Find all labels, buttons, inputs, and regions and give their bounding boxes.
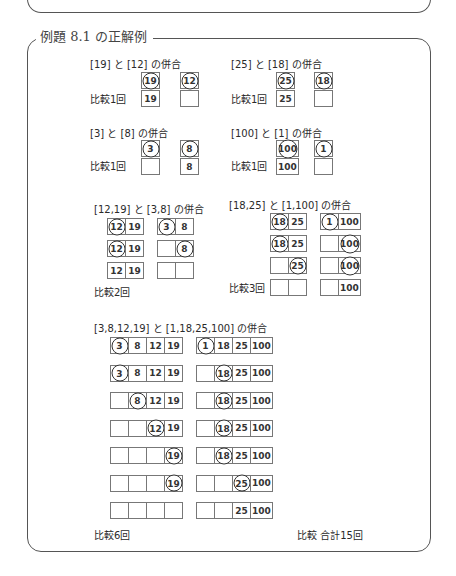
array-cell: 8 bbox=[180, 158, 199, 175]
compare-count: 比較1回 bbox=[90, 94, 126, 106]
circle-marker: 3 bbox=[142, 140, 159, 157]
box-title: 例題 8.1 の正解例 bbox=[36, 28, 153, 46]
previous-box-frame bbox=[27, 0, 431, 13]
array-cell bbox=[110, 420, 129, 437]
left-array: 81219 bbox=[110, 392, 183, 409]
array-cell bbox=[196, 392, 215, 409]
circled-cell: 8 bbox=[175, 240, 194, 257]
circle-marker: 100 bbox=[340, 234, 359, 253]
right-array bbox=[180, 90, 199, 107]
array-cell bbox=[110, 475, 129, 492]
circled-cell: 3 bbox=[157, 218, 176, 235]
array-cell: 19 bbox=[164, 420, 183, 437]
array-cell bbox=[320, 235, 339, 252]
array-cell: 19 bbox=[125, 262, 144, 279]
circle-marker: 100 bbox=[340, 256, 359, 275]
circled-cell: 18 bbox=[270, 235, 289, 252]
circle-marker: 12 bbox=[108, 218, 125, 235]
compare-count: 比較1回 bbox=[231, 94, 267, 106]
array-cell: 12 bbox=[146, 365, 165, 382]
right-array: 1825100 bbox=[196, 392, 273, 409]
array-cell bbox=[110, 392, 129, 409]
array-cell bbox=[164, 502, 183, 519]
array-cell: 12 bbox=[107, 262, 126, 279]
array-cell bbox=[196, 365, 215, 382]
array-cell bbox=[110, 502, 129, 519]
circle-marker: 19 bbox=[142, 72, 159, 89]
array-cell: 100 bbox=[250, 447, 273, 464]
array-cell bbox=[270, 257, 289, 274]
right-array: 100 bbox=[320, 279, 361, 296]
circled-cell: 100 bbox=[338, 235, 361, 252]
merge-label: [19] と [12] の併合 bbox=[90, 59, 181, 71]
circle-marker: 12 bbox=[181, 72, 198, 89]
right-array: 100 bbox=[320, 235, 361, 252]
left-array: 25 bbox=[270, 257, 307, 274]
right-array: 25100 bbox=[196, 475, 273, 492]
array-cell: 19 bbox=[164, 392, 183, 409]
circled-cell: 3 bbox=[141, 140, 160, 157]
merge-label: [25] と [18] の併合 bbox=[231, 59, 322, 71]
circle-marker: 18 bbox=[271, 235, 288, 252]
left-array: 1219 bbox=[107, 262, 144, 279]
compare-count: 比較1回 bbox=[231, 161, 267, 173]
circled-cell: 12 bbox=[107, 218, 126, 235]
array-cell: 25 bbox=[232, 420, 251, 437]
right-array: 100 bbox=[320, 257, 361, 274]
left-array: 1219 bbox=[107, 218, 144, 235]
array-cell: 19 bbox=[164, 337, 183, 354]
right-array bbox=[157, 262, 194, 279]
array-cell bbox=[196, 447, 215, 464]
circle-marker: 1 bbox=[321, 213, 338, 230]
circle-marker: 25 bbox=[233, 475, 250, 492]
array-cell: 100 bbox=[250, 502, 273, 519]
array-cell: 18 bbox=[214, 337, 233, 354]
array-cell: 12 bbox=[146, 392, 165, 409]
left-array: 19 bbox=[110, 447, 183, 464]
circle-marker: 8 bbox=[176, 240, 193, 257]
array-cell bbox=[270, 279, 289, 296]
left-array: 19 bbox=[141, 90, 160, 107]
circle-marker: 12 bbox=[108, 240, 125, 257]
array-cell: 25 bbox=[232, 392, 251, 409]
circle-marker: 8 bbox=[129, 392, 146, 409]
circle-marker: 8 bbox=[181, 140, 198, 157]
array-cell: 19 bbox=[125, 218, 144, 235]
left-array: 100 bbox=[276, 140, 299, 157]
right-array: 8 bbox=[180, 140, 199, 157]
circle-marker: 18 bbox=[215, 392, 232, 409]
circled-cell: 1 bbox=[196, 337, 215, 354]
right-array: 12 bbox=[180, 72, 199, 89]
array-cell bbox=[157, 240, 176, 257]
circle-marker: 3 bbox=[111, 337, 128, 354]
array-cell: 100 bbox=[250, 337, 273, 354]
circled-cell: 18 bbox=[214, 365, 233, 382]
compare-count: 比較1回 bbox=[90, 161, 126, 173]
merge-label: [3] と [8] の併合 bbox=[90, 128, 168, 140]
array-cell: 100 bbox=[338, 279, 361, 296]
circle-marker: 25 bbox=[289, 257, 306, 274]
left-array: 3 bbox=[141, 140, 160, 157]
array-cell bbox=[128, 502, 147, 519]
circled-cell: 18 bbox=[214, 447, 233, 464]
circle-marker: 100 bbox=[278, 139, 297, 158]
array-cell bbox=[110, 447, 129, 464]
array-cell bbox=[196, 420, 215, 437]
left-array: 1825 bbox=[270, 235, 307, 252]
circled-cell: 12 bbox=[107, 240, 126, 257]
left-array: 381219 bbox=[110, 365, 183, 382]
array-cell bbox=[180, 90, 199, 107]
circled-cell: 19 bbox=[141, 72, 160, 89]
circled-cell: 3 bbox=[110, 365, 129, 382]
array-cell: 100 bbox=[250, 420, 273, 437]
merge-label: [18,25] と [1,100] の併合 bbox=[229, 200, 351, 212]
circle-marker: 1 bbox=[197, 337, 214, 354]
circled-cell: 12 bbox=[146, 420, 165, 437]
left-array: 100 bbox=[276, 158, 299, 175]
array-cell: 25 bbox=[288, 235, 307, 252]
left-array: 19 bbox=[110, 475, 183, 492]
left-array bbox=[141, 158, 160, 175]
array-cell: 25 bbox=[232, 447, 251, 464]
compare-count: 比較3回 bbox=[229, 283, 265, 295]
right-array bbox=[314, 158, 333, 175]
